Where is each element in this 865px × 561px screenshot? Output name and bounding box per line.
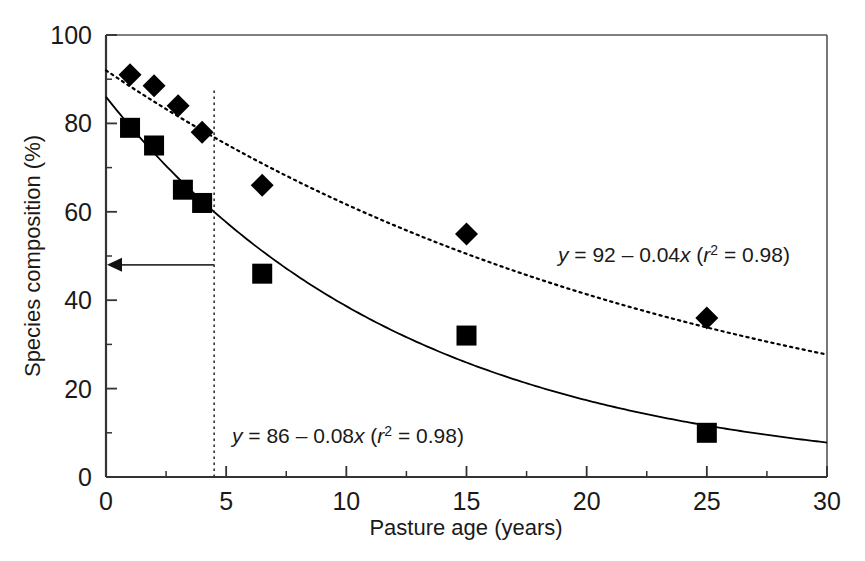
equation-label-square-series: y = 86 – 0.08x (r2 = 0.98)	[230, 423, 464, 447]
marker-square-series-3	[192, 193, 212, 213]
marker-square-series-1	[144, 136, 164, 156]
x-tick-label-0: 0	[99, 487, 113, 515]
y-tick-label-1: 20	[64, 375, 92, 403]
x-tick-label-2: 10	[332, 487, 360, 515]
marker-square-series-6	[697, 423, 717, 443]
equation-label-diamond-series: y = 92 – 0.04x (r2 = 0.98)	[556, 242, 790, 266]
x-tick-label-1: 5	[219, 487, 233, 515]
y-tick-label-4: 80	[64, 109, 92, 137]
y-tick-label-3: 60	[64, 198, 92, 226]
figure-container: 051015202530 020406080100 Pasture age (y…	[0, 0, 865, 561]
marker-square-series-5	[457, 326, 477, 346]
x-tick-label-4: 20	[573, 487, 601, 515]
x-tick-label-6: 30	[813, 487, 841, 515]
marker-square-series-4	[252, 264, 272, 284]
y-tick-label-0: 0	[78, 463, 92, 491]
marker-square-series-2	[173, 180, 193, 200]
species-composition-chart: 051015202530 020406080100 Pasture age (y…	[0, 0, 865, 561]
x-tick-label-3: 15	[453, 487, 481, 515]
y-tick-label-5: 100	[50, 21, 92, 49]
x-axis-title: Pasture age (years)	[369, 515, 562, 540]
x-tick-label-5: 25	[693, 487, 721, 515]
y-tick-label-2: 40	[64, 286, 92, 314]
y-axis-title: Species composition (%)	[20, 135, 45, 377]
marker-square-series-0	[120, 118, 140, 138]
